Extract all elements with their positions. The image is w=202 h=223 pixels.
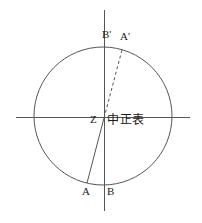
label-b-prime: B' [102,29,111,40]
label-a-prime: A' [120,31,130,42]
gnomon-ray-dashed-line [104,50,122,118]
figure-canvas: B' A' Z 中正表 A B [0,0,202,223]
label-a: A [82,186,90,197]
label-b: B [107,186,114,197]
label-instrument-name: 中正表 [107,114,145,126]
gnomon-shadow-solid-line [87,118,104,183]
diagram-svg [0,0,202,223]
label-center-z: Z [90,114,97,125]
main-circle [34,47,172,185]
